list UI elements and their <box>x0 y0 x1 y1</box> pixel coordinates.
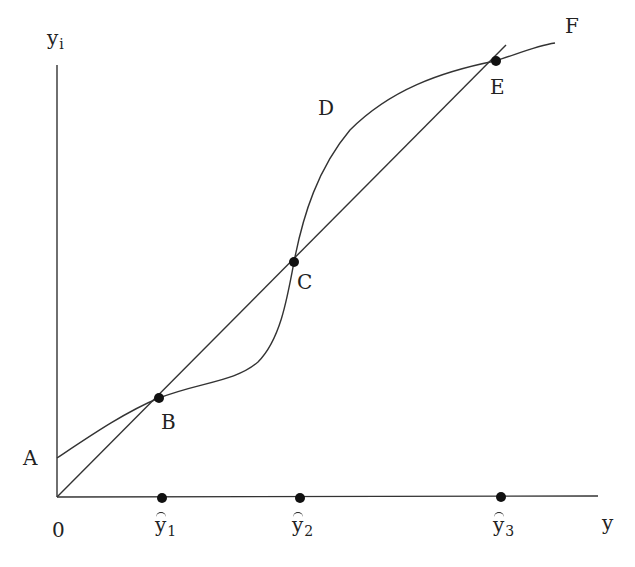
x-axis-label: y <box>602 513 613 533</box>
y-axis-label-subscript: i <box>59 36 63 52</box>
y-axis-label-base: y <box>47 26 58 50</box>
x-axis <box>57 496 598 497</box>
y-axis-label: yi <box>47 28 64 48</box>
marker-y2-label: y2 <box>292 515 313 535</box>
marker-y1-subscript: 1 <box>167 523 176 539</box>
s-curve <box>57 43 555 458</box>
ray-from-origin <box>57 45 506 497</box>
marker-y3-dot <box>496 492 506 502</box>
point-a-label: A <box>23 448 37 468</box>
point-f-label: F <box>565 16 579 36</box>
point-e-dot <box>491 56 501 66</box>
marker-y1-label: y1 <box>155 515 176 535</box>
point-e-label: E <box>490 77 505 97</box>
origin-label: 0 <box>52 520 65 540</box>
marker-y3-subscript: 3 <box>505 523 514 539</box>
marker-y2-base: y <box>292 515 303 535</box>
marker-y3-label: y3 <box>493 515 514 535</box>
point-d-label: D <box>318 98 334 118</box>
point-c-label: C <box>297 272 312 292</box>
marker-y1-base: y <box>155 515 166 535</box>
diagram: yi y 0 A B C D E F y1 y2 y3 <box>0 0 635 567</box>
marker-y2-dot <box>295 493 305 503</box>
marker-y2-subscript: 2 <box>304 523 313 539</box>
point-b-dot <box>154 393 164 403</box>
diagram-canvas <box>0 0 635 567</box>
point-b-label: B <box>161 412 176 432</box>
point-c-dot <box>289 257 299 267</box>
marker-y1-dot <box>157 493 167 503</box>
marker-y3-base: y <box>493 515 504 535</box>
